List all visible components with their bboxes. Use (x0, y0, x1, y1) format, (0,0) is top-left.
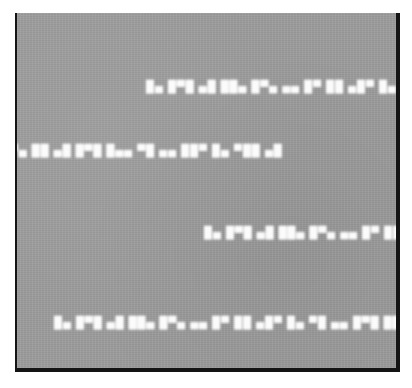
grey-text-panel: █▄ █▀█ ▄█ ██▄ █▀▄ ▄▄ █▀ ██ ▄█▀ █▄ ▀█ ▄▄ … (17, 13, 396, 368)
text-row: █▀▄ ██ ▄█ █▀█ █▄▄ ▀█ ▄▄ ██▀ █▄ ▀██ ▄█ (17, 144, 283, 157)
text-row: █▄ █▀█ ▄█ ██▄ █▀▄ ▄▄ █▀ ██ ▄█▀ █▄ ▀█ (204, 226, 396, 239)
screenshot-root: █▄ █▀█ ▄█ ██▄ █▀▄ ▄▄ █▀ ██ ▄█▀ █▄ ▀█ ▄▄ … (0, 0, 412, 388)
text-row: █▄ █▀█ ▄█ ██▄ █▀▄ ▄▄ █▀ ██ ▄█▀ █▄ ▀█ ▄▄ … (54, 316, 396, 329)
text-row: █▄ █▀█ ▄█ ██▄ █▀▄ ▄▄ █▀ ██ ▄█▀ █▄ ▀█ ▄▄ … (146, 80, 396, 93)
